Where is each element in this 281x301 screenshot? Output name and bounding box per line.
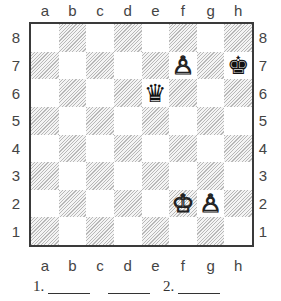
move-1-white-blank[interactable] [48,293,90,294]
square-b6 [59,79,87,107]
square-f5 [169,107,197,135]
square-c1 [86,217,114,245]
file-label: h [224,257,252,274]
square-h7: ♚ [224,52,252,80]
rank-label: 3 [255,162,271,190]
rank-label: 2 [8,190,24,218]
square-a3 [31,162,59,190]
rank-label: 7 [8,52,24,80]
square-d8 [114,24,142,52]
square-c3 [86,162,114,190]
square-h2 [224,190,252,218]
square-a5 [31,107,59,135]
square-b5 [59,107,87,135]
rank-label: 8 [8,24,24,52]
white-pawn-icon: ♙ [172,53,194,78]
square-h1 [224,217,252,245]
square-f8 [169,24,197,52]
square-d4 [114,135,142,163]
rank-label: 2 [255,190,271,218]
file-labels-top: a b c d e f g h [31,2,252,19]
file-label: e [142,257,170,274]
square-b4 [59,135,87,163]
file-label: b [59,2,87,19]
rank-label: 1 [255,217,271,245]
file-label: f [169,2,197,19]
square-e4 [142,135,170,163]
rank-label: 8 [255,24,271,52]
square-a8 [31,24,59,52]
chess-board: ♙♚♛♔♙ [29,22,254,247]
square-a7 [31,52,59,80]
white-king-icon: ♔ [172,191,194,216]
square-f2: ♔ [169,190,197,218]
square-g6 [197,79,225,107]
move-2-label: 2. [163,278,174,295]
square-a2 [31,190,59,218]
square-d7 [114,52,142,80]
rank-label: 5 [8,107,24,135]
square-g8 [197,24,225,52]
file-label: f [169,257,197,274]
move-1-black-blank[interactable] [108,293,150,294]
file-label: c [86,257,114,274]
square-e2 [142,190,170,218]
black-queen-icon: ♛ [144,81,166,106]
file-label: a [31,257,59,274]
file-labels-bottom: a b c d e f g h [31,257,252,274]
square-g3 [197,162,225,190]
file-label: g [197,2,225,19]
square-d5 [114,107,142,135]
square-e5 [142,107,170,135]
move-2-white-blank[interactable] [178,293,220,294]
rank-label: 3 [8,162,24,190]
square-h4 [224,135,252,163]
square-g4 [197,135,225,163]
square-c8 [86,24,114,52]
square-f3 [169,162,197,190]
file-label: d [114,2,142,19]
square-c6 [86,79,114,107]
square-e8 [142,24,170,52]
square-b2 [59,190,87,218]
rank-label: 6 [255,79,271,107]
file-label: b [59,257,87,274]
rank-label: 7 [255,52,271,80]
square-g7 [197,52,225,80]
square-b1 [59,217,87,245]
file-label: a [31,2,59,19]
square-g2: ♙ [197,190,225,218]
square-h3 [224,162,252,190]
square-f7: ♙ [169,52,197,80]
square-c5 [86,107,114,135]
file-label: d [114,257,142,274]
answer-lines: 1. 2. [0,278,281,298]
square-a6 [31,79,59,107]
file-label: g [197,257,225,274]
square-f4 [169,135,197,163]
rank-label: 4 [8,135,24,163]
rank-labels-left: 8 7 6 5 4 3 2 1 [8,24,24,245]
square-f6 [169,79,197,107]
file-label: c [86,2,114,19]
square-b3 [59,162,87,190]
rank-label: 4 [255,135,271,163]
square-b8 [59,24,87,52]
square-g5 [197,107,225,135]
square-a1 [31,217,59,245]
file-label: e [142,2,170,19]
white-pawn-icon: ♙ [199,191,221,216]
square-c4 [86,135,114,163]
rank-label: 1 [8,217,24,245]
square-b7 [59,52,87,80]
square-a4 [31,135,59,163]
file-label: h [224,2,252,19]
square-e3 [142,162,170,190]
square-f1 [169,217,197,245]
square-d6 [114,79,142,107]
square-c2 [86,190,114,218]
square-d1 [114,217,142,245]
rank-label: 5 [255,107,271,135]
square-h8 [224,24,252,52]
rank-label: 6 [8,79,24,107]
